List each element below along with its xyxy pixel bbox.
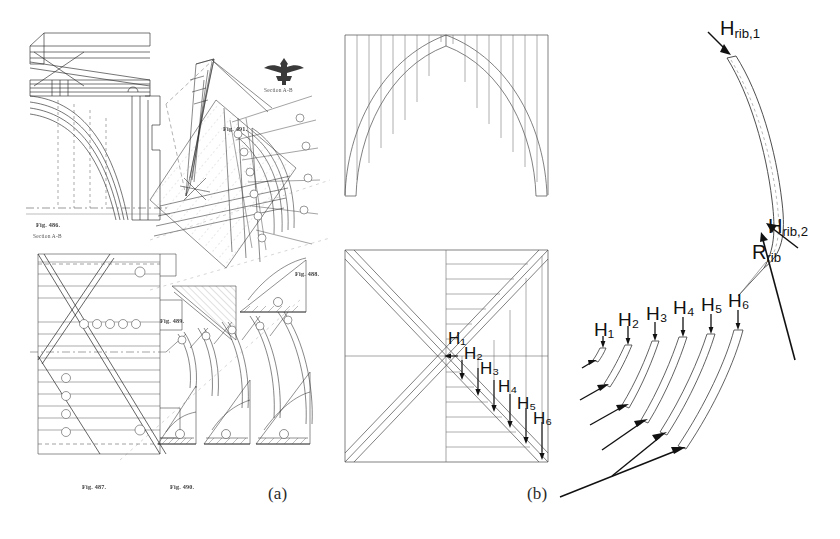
panel-b-vault-geometry: H₁ H₂ H₃ H₄ H₅ H₆ xyxy=(340,20,560,470)
fig-label-486: Fig. 486. xyxy=(36,221,60,228)
fig-label-487: Fig. 487. xyxy=(82,483,106,490)
label-h-rib-2: Hrib,2 xyxy=(768,216,808,236)
fig-490-rib-sections xyxy=(166,312,312,424)
plan-force-label-h4: H₄ xyxy=(498,378,517,395)
segment-label-h1: H₁ xyxy=(594,320,614,339)
plan-force-label-h6: H₆ xyxy=(533,410,552,427)
quadripartite-vault-plan xyxy=(345,250,548,462)
fig-label-490: Fig. 490. xyxy=(170,483,194,490)
figure-root: Fig. 486. Section A-B Fig. 491. Fig. 488… xyxy=(0,0,840,539)
caption-b: (b) xyxy=(527,484,547,504)
label-r-rib: Rrib xyxy=(752,242,781,262)
fig-490-load-triangles xyxy=(158,258,310,444)
rib-segment-2 xyxy=(604,345,632,387)
plan-force-label-h3: H₃ xyxy=(480,360,499,377)
segment-label-h5: H₅ xyxy=(701,295,722,314)
label-h-rib-1-sub: rib,1 xyxy=(734,26,760,41)
label-h-rib-1-base: H xyxy=(720,17,734,39)
fig-487-plan xyxy=(30,254,182,454)
caption-a: (a) xyxy=(268,484,287,504)
fig-label-488: Fig. 488. xyxy=(295,270,319,277)
segment-reaction-arrows xyxy=(560,360,686,497)
rib-segment-1 xyxy=(593,348,606,362)
rib-thrust-drawing xyxy=(560,0,840,500)
label-r-rib-sub: rib xyxy=(766,250,781,265)
rib-segment-4 xyxy=(641,337,687,423)
panel-c-rib-thrust: Hrib,1 Hrib,2 Rrib H₁ H₂ H₃ H₄ H₅ H₆ xyxy=(560,0,840,500)
fig-486-elevation xyxy=(26,33,170,220)
fig-label-486-section: Section A-B xyxy=(33,233,62,239)
label-h-rib-2-sub: rib,2 xyxy=(782,224,808,239)
segment-label-h2: H₂ xyxy=(618,310,639,329)
winged-keystone-emblem xyxy=(262,54,306,88)
emblem-caption: Section A-B xyxy=(264,87,293,93)
label-h-rib-2-base: H xyxy=(768,215,782,237)
segment-label-h6: H₆ xyxy=(728,291,749,310)
segment-label-h4: H₄ xyxy=(673,298,694,317)
fig-label-489: Fig. 489. xyxy=(160,317,184,324)
label-r-rib-base: R xyxy=(752,241,766,263)
fig-label-491: Fig. 491. xyxy=(223,125,247,132)
segment-label-h3: H₃ xyxy=(646,304,667,323)
panel-a-historical-plate: Fig. 486. Section A-B Fig. 491. Fig. 488… xyxy=(0,0,340,500)
gothic-arch-elevation xyxy=(345,35,548,196)
fig-488-inclined-rib xyxy=(150,96,320,268)
label-h-rib-1: Hrib,1 xyxy=(720,18,760,38)
incremental-rib-segments xyxy=(593,330,743,449)
